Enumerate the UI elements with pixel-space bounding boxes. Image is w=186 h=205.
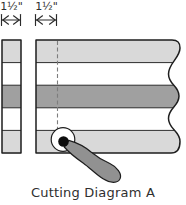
fabric-band-light xyxy=(2,40,21,63)
cutting-diagram: 1½" 1½" xyxy=(0,0,186,205)
measurement-arrow-right xyxy=(36,15,57,26)
cut-strip-bands xyxy=(2,40,21,154)
blade-pivot-dot xyxy=(58,136,69,147)
fabric-band-white xyxy=(2,108,21,131)
fabric-band-white xyxy=(2,63,21,86)
fabric-band-light xyxy=(2,130,21,153)
fabric-band-dark xyxy=(2,85,21,108)
cutting-diagram-canvas xyxy=(0,0,186,205)
diagram-caption: Cutting Diagram A xyxy=(0,185,186,201)
measurement-arrow-left xyxy=(2,15,21,26)
cut-strip xyxy=(2,40,21,154)
